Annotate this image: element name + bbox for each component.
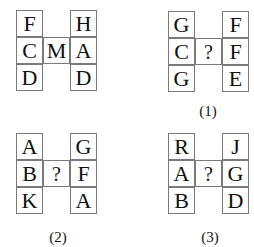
- example-puzzle: F C D M H A D: [16, 10, 99, 91]
- puzzle-1-label: (1): [188, 103, 228, 120]
- right-bottom-cell: D: [70, 64, 97, 91]
- left-middle-cell: C: [16, 37, 43, 64]
- left-middle-cell: A: [168, 160, 195, 187]
- left-bottom-cell: B: [168, 187, 195, 214]
- right-middle-cell: A: [70, 37, 97, 64]
- unknown-center-cell: ?: [195, 160, 222, 187]
- left-top-cell: R: [168, 133, 195, 160]
- left-bottom-cell: D: [16, 64, 43, 91]
- right-middle-cell: F: [222, 38, 249, 65]
- right-top-cell: H: [70, 10, 97, 37]
- center-cell: M: [43, 37, 70, 64]
- left-top-cell: F: [16, 10, 43, 37]
- right-bottom-cell: A: [70, 187, 97, 214]
- puzzle-1: G C G ? F F E: [168, 11, 251, 92]
- right-top-cell: F: [222, 11, 249, 38]
- right-middle-cell: F: [70, 160, 97, 187]
- puzzle-3: R A B ? J G D: [168, 133, 251, 214]
- unknown-center-cell: ?: [43, 160, 70, 187]
- left-bottom-cell: G: [168, 65, 195, 92]
- left-top-cell: G: [168, 11, 195, 38]
- left-bottom-cell: K: [16, 187, 43, 214]
- puzzle-3-label: (3): [190, 229, 230, 246]
- right-bottom-cell: D: [222, 187, 249, 214]
- puzzle-2: A B K ? G F A: [16, 133, 99, 214]
- right-bottom-cell: E: [222, 65, 249, 92]
- left-middle-cell: C: [168, 38, 195, 65]
- left-middle-cell: B: [16, 160, 43, 187]
- left-top-cell: A: [16, 133, 43, 160]
- unknown-center-cell: ?: [195, 38, 222, 65]
- right-top-cell: G: [70, 133, 97, 160]
- right-top-cell: J: [222, 133, 249, 160]
- right-middle-cell: G: [222, 160, 249, 187]
- puzzle-2-label: (2): [38, 229, 78, 246]
